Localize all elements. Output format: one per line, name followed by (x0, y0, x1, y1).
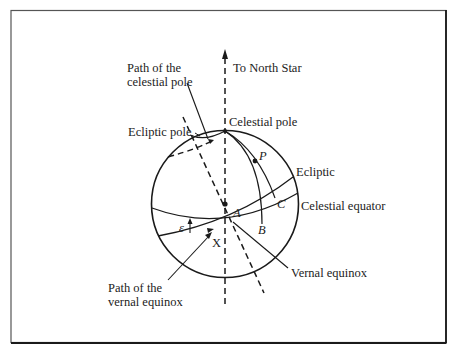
ecliptic-direction-arrow-icon (207, 228, 214, 233)
precession-arrow-icon (208, 139, 214, 144)
path-celestial-pole-label-line2: celestial pole (127, 75, 193, 89)
epsilon-label: ε (179, 221, 184, 235)
ecliptic-label: Ecliptic (296, 165, 335, 179)
north-star-arrow-icon (222, 49, 228, 59)
point-a-label: A (232, 206, 241, 220)
vernal-equinox-path-arrow-icon (205, 232, 212, 239)
celestial-pole-label: Celestial pole (229, 115, 298, 129)
point-b-label: B (258, 223, 266, 237)
vernal-equinox-label: Vernal equinox (291, 266, 368, 280)
sphere-center-dot (222, 201, 227, 206)
celestial-sphere-diagram: To North Star Path of the celestial pole… (0, 0, 456, 351)
point-c-label: C (277, 197, 286, 211)
path-of-celestial-pole-arc (168, 140, 213, 157)
point-p-dot (253, 159, 258, 164)
point-x-label: X (212, 236, 221, 250)
path-vernal-equinox-label-line2: vernal equinox (108, 295, 183, 309)
path-celestial-pole-label-line1: Path of the (127, 61, 182, 75)
path-vernal-equinox-label-line1: Path of the (108, 281, 163, 295)
celestial-equator-label: Celestial equator (301, 199, 386, 213)
ecliptic-pole-label: Ecliptic pole (128, 125, 192, 139)
ecliptic-latitude-circle (225, 131, 275, 198)
obliquity-arrow-icon (188, 218, 193, 224)
figure-frame (11, 11, 446, 343)
ecliptic-pole-point (223, 129, 227, 133)
north-star-label: To North Star (233, 61, 302, 75)
point-p-label: P (258, 149, 267, 163)
